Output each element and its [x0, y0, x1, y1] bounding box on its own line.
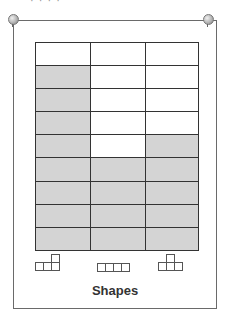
- grid-cell: [91, 89, 146, 112]
- shape-square: [51, 262, 60, 271]
- shape-square: [51, 254, 60, 263]
- shape-square: [121, 263, 130, 272]
- grid-cell: [36, 43, 91, 66]
- grid-cell: [146, 112, 199, 135]
- grid-cell: [91, 112, 146, 135]
- grid-cell: [91, 135, 146, 158]
- pushpin-icon: [8, 14, 19, 25]
- grid-cell: [36, 112, 91, 135]
- grid-cell: [91, 205, 146, 228]
- grid-cell: [146, 135, 199, 158]
- grid-cell: [91, 228, 146, 251]
- grid-cell: [146, 228, 199, 251]
- pushpin-icon: [203, 14, 214, 25]
- grid-cell: [146, 66, 199, 89]
- category-label: Shapes: [13, 283, 217, 298]
- shape-square: [174, 262, 183, 271]
- grid-cell: [146, 89, 199, 112]
- grid-cell: [146, 205, 199, 228]
- grid-cell: [91, 182, 146, 205]
- pictograph-grid: [35, 42, 199, 251]
- grid-cell: [36, 158, 91, 181]
- grid-cell: [36, 66, 91, 89]
- cropped-header-text: · · · ·: [30, 0, 61, 6]
- grid-cell: [91, 43, 146, 66]
- grid-cell: [36, 89, 91, 112]
- grid-cell: [146, 182, 199, 205]
- grid-cell: [36, 135, 91, 158]
- shape-square: [166, 254, 175, 263]
- grid-cell: [36, 205, 91, 228]
- grid-cell: [36, 228, 91, 251]
- grid-cell: [146, 158, 199, 181]
- grid-cell: [91, 66, 146, 89]
- shape-icons-row: [13, 254, 217, 276]
- grid-cell: [36, 182, 91, 205]
- grid-cell: [91, 158, 146, 181]
- grid-cell: [146, 43, 199, 66]
